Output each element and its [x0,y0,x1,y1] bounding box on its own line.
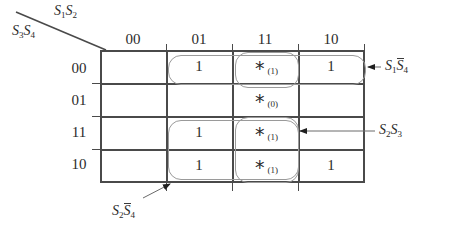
annotation-s2-s3-label: S2S3 [379,122,402,138]
annotation-s2-s4bar-label: S2S4 [112,203,135,219]
annotation-s1-s4bar-label: S1S4 [385,58,408,74]
kmap-diagram: S1S2 S3S4 00 01 11 10 00 01 11 10 [0,0,452,244]
